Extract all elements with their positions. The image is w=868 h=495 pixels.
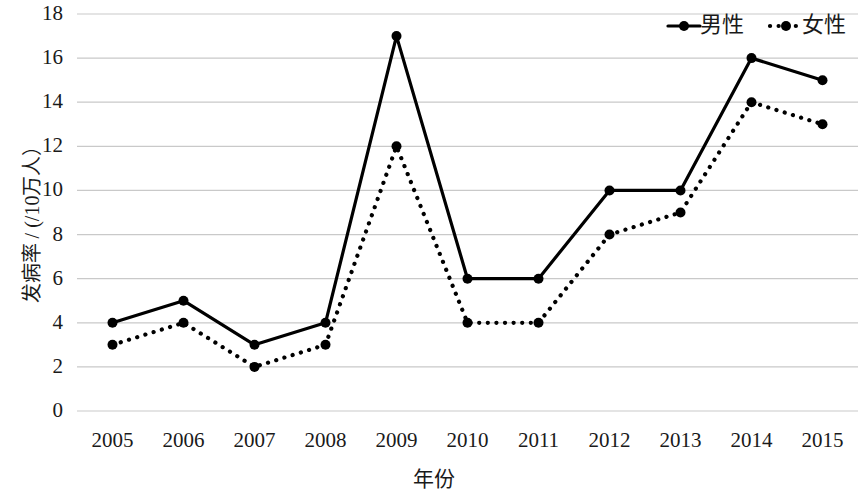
legend-marks (0, 0, 868, 495)
incidence-rate-line-chart: 发病率 / (/10万人） 年份 024681012141618 2005200… (0, 0, 868, 495)
legend-label-female: 女性 (802, 14, 846, 36)
legend-marker-male (679, 21, 689, 31)
legend-marker-female (781, 21, 791, 31)
legend-label-male: 男性 (700, 14, 744, 36)
